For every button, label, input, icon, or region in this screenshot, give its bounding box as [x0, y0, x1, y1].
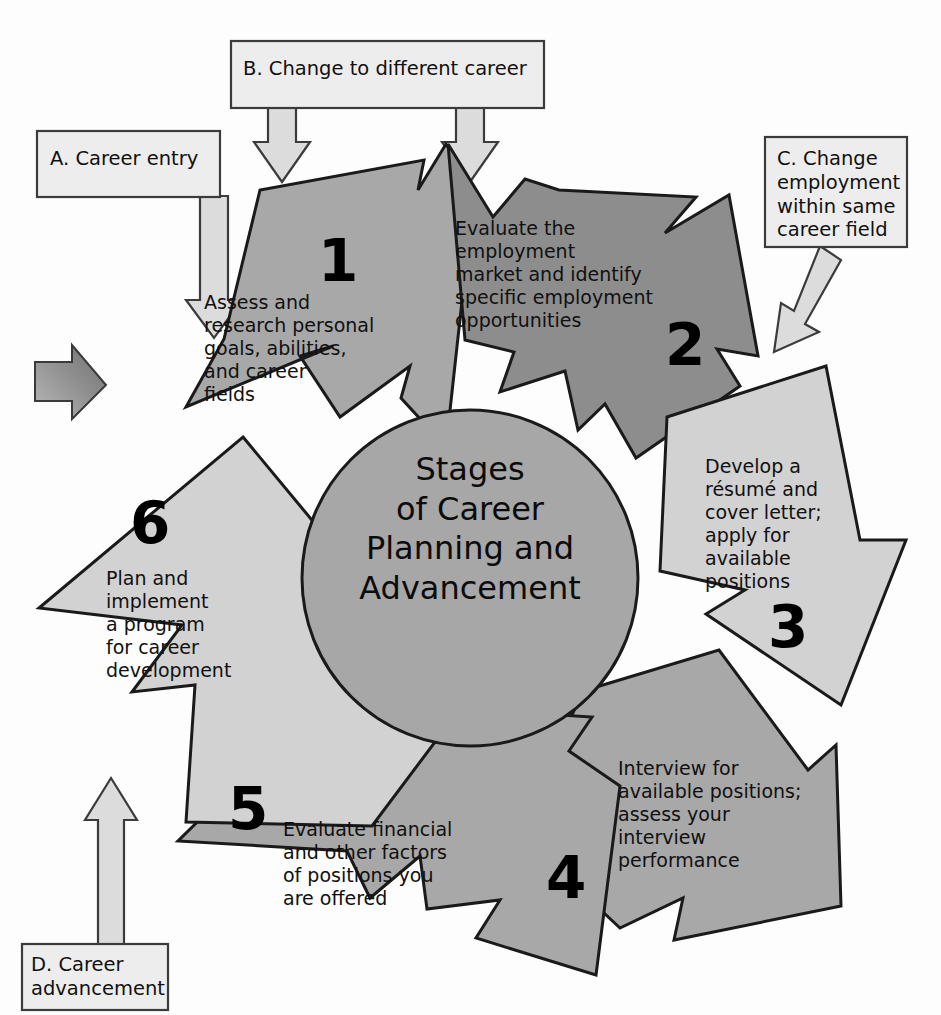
- step-4-text: Interview for available positions; asses…: [618, 757, 818, 872]
- center-title-line-1: Stages: [320, 450, 620, 490]
- step-1-line-4: and career: [204, 360, 389, 383]
- step-4-line-4: interview: [618, 826, 818, 849]
- step-6-line-1: Plan and: [106, 567, 256, 590]
- step-3-line-4: apply for: [705, 524, 840, 547]
- entry-chevron-icon: [35, 345, 106, 419]
- step-3-line-1: Develop a: [705, 455, 840, 478]
- callout-d-label: D. Career advancement: [31, 953, 171, 1001]
- step-6-number: 6: [130, 490, 170, 557]
- callout-c-arrow: [774, 246, 841, 352]
- callout-b-arrow-left: [254, 108, 310, 182]
- step-5-line-2: and other factors: [283, 841, 473, 864]
- callout-b-label: B. Change to different career: [243, 57, 538, 81]
- step-2-line-4: specific employment: [455, 286, 670, 309]
- callout-c-line-4: career field: [777, 218, 907, 242]
- callout-a-label: A. Career entry: [50, 147, 215, 171]
- callout-c-line-3: within same: [777, 195, 907, 219]
- step-4-number: 4: [546, 845, 586, 912]
- center-title-line-2: of Career: [320, 490, 620, 530]
- step-1-number: 1: [318, 228, 358, 295]
- step-3-line-5: available: [705, 547, 840, 570]
- step-5-line-3: of positions you: [283, 864, 473, 887]
- step-2-number: 2: [665, 312, 705, 379]
- step-6-line-3: a program: [106, 613, 256, 636]
- callout-d-arrow: [85, 778, 137, 944]
- step-3-line-3: cover letter;: [705, 501, 840, 524]
- step-1-line-3: goals, abilities,: [204, 337, 389, 360]
- step-1-line-5: fields: [204, 383, 389, 406]
- step-4-line-3: assess your: [618, 803, 818, 826]
- callout-b-line-1: B. Change to different career: [243, 57, 538, 81]
- callout-d-line-1: D. Career: [31, 953, 171, 977]
- callout-c-line-2: employment: [777, 171, 907, 195]
- center-title-line-3: Planning and: [320, 529, 620, 569]
- step-3-line-2: résumé and: [705, 478, 840, 501]
- callout-d-line-2: advancement: [31, 977, 171, 1001]
- step-2-line-5: opportunities: [455, 309, 670, 332]
- step-6-text: Plan and implement a program for career …: [106, 567, 256, 682]
- step-1-text: Assess and research personal goals, abil…: [204, 291, 389, 406]
- step-2-line-1: Evaluate the: [455, 217, 670, 240]
- step-6-line-2: implement: [106, 590, 256, 613]
- step-3-number: 3: [768, 594, 808, 661]
- diagram-canvas: A. Career entry B. Change to different c…: [0, 0, 941, 1015]
- step-5-number: 5: [228, 776, 268, 843]
- step-2-line-2: employment: [455, 240, 670, 263]
- step-4-line-5: performance: [618, 849, 818, 872]
- step-6-line-5: development: [106, 659, 256, 682]
- step-4-line-1: Interview for: [618, 757, 818, 780]
- step-5-text: Evaluate financial and other factors of …: [283, 818, 473, 910]
- center-title: Stages of Career Planning and Advancemen…: [320, 450, 620, 608]
- callout-a-line-1: A. Career entry: [50, 147, 215, 171]
- step-6-line-4: for career: [106, 636, 256, 659]
- callout-c-line-1: C. Change: [777, 147, 907, 171]
- step-2-line-3: market and identify: [455, 263, 670, 286]
- step-4-line-2: available positions;: [618, 780, 818, 803]
- center-title-line-4: Advancement: [320, 569, 620, 609]
- step-2-text: Evaluate the employment market and ident…: [455, 217, 670, 332]
- step-5-line-1: Evaluate financial: [283, 818, 473, 841]
- step-5-line-4: are offered: [283, 887, 473, 910]
- step-1-line-1: Assess and: [204, 291, 389, 314]
- step-3-line-6: positions: [705, 570, 840, 593]
- step-1-line-2: research personal: [204, 314, 389, 337]
- callout-c-label: C. Change employment within same career …: [777, 147, 907, 242]
- step-3-text: Develop a résumé and cover letter; apply…: [705, 455, 840, 593]
